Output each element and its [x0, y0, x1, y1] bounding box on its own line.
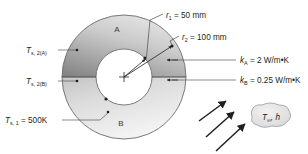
label-fluid-rest: , h: [271, 113, 281, 122]
label-ts1-subscript: s, 1: [10, 120, 19, 126]
figure-canvas: r1 = 50 mm r2 = 100 mm kA = 2 W/m•K kB =…: [0, 0, 308, 154]
heat-transfer-figure: r1 = 50 mm r2 = 100 mm kA = 2 W/m•K kB =…: [0, 0, 308, 154]
label-ts2a-subscript: s, 2(A): [31, 50, 47, 56]
label-ts2a: Ts, 2(A): [26, 46, 47, 56]
r1-marker-dot: [143, 56, 146, 59]
temp-ts2a-point: [76, 49, 79, 52]
convection-arrows: [199, 101, 245, 151]
label-r1: r1 = 50 mm: [166, 11, 206, 21]
label-ka-value: = 2 W/m•K: [248, 56, 290, 65]
temp-ts2b-point: [76, 80, 79, 83]
convection-arrow-1: [199, 101, 226, 121]
convection-arrow-2: [206, 112, 234, 137]
label-r2-value: = 100 mm: [188, 33, 227, 42]
region-label-a: A: [114, 25, 120, 34]
label-ts1-value: = 500K: [19, 116, 48, 125]
label-r1-value: = 50 mm: [172, 11, 207, 20]
r2-marker-dot: [170, 44, 173, 47]
temp-ts1-point: [107, 111, 110, 114]
convection-arrow-3: [216, 124, 245, 151]
region-label-b: B: [118, 119, 123, 128]
label-ts2b-subscript: s, 2(B): [31, 81, 47, 87]
label-ts1: Ts, 1 = 500K: [5, 116, 48, 126]
label-fluid: T∞, h: [262, 113, 280, 123]
label-r2: r2 = 100 mm: [182, 33, 227, 43]
bore-marker-dot: [104, 97, 107, 100]
label-ts2b: Ts, 2(B): [26, 77, 47, 87]
label-ka: kA = 2 W/m•K: [240, 56, 290, 66]
label-kb-value: = 0.25 W/m•K: [248, 76, 301, 85]
label-kb: kB = 0.25 W/m•K: [240, 76, 301, 86]
